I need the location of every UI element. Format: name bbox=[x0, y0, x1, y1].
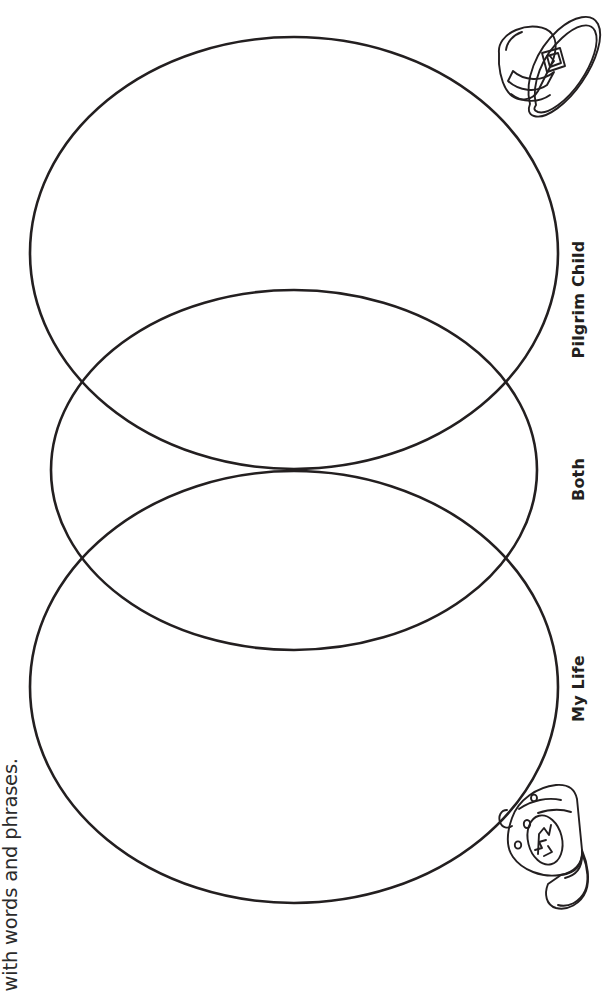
venn-circle-pilgrim-child bbox=[30, 37, 558, 469]
region-label-both: Both bbox=[569, 425, 588, 535]
venn-circle-my-life bbox=[30, 471, 558, 903]
pilgrim-hat-icon bbox=[484, 8, 609, 153]
region-label-pilgrim-child: Pilgrim Child bbox=[569, 235, 588, 365]
instruction-text: with words and phrases. bbox=[0, 632, 22, 992]
baseball-cap-icon bbox=[482, 772, 608, 918]
region-label-my-life: My Life bbox=[569, 629, 588, 749]
